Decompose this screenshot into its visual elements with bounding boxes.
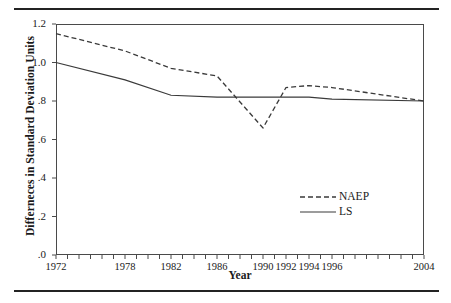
series-line-ls: [56, 63, 424, 102]
x-tick-label: 1972: [36, 261, 76, 272]
chart-svg: [0, 0, 451, 303]
series-line-naep: [56, 34, 424, 128]
y-tick-marks-group: [52, 24, 56, 255]
y-tick-label: 1.0: [12, 57, 46, 68]
y-tick-label: .4: [12, 172, 46, 183]
y-tick-label: 1.2: [12, 18, 46, 29]
legend-label-naep: NAEP: [339, 190, 369, 202]
x-tick-label: 1986: [197, 261, 237, 272]
y-tick-label: .0: [12, 249, 46, 260]
legend-label-ls: LS: [339, 205, 352, 217]
y-tick-label: .2: [12, 211, 46, 222]
figure-container: Differneces in Standard Deviation Units …: [0, 0, 451, 303]
x-tick-label: 1996: [312, 261, 352, 272]
y-tick-label: .6: [12, 134, 46, 145]
x-tick-label: 1982: [151, 261, 191, 272]
data-series-group: [56, 34, 424, 128]
x-tick-marks-group: [56, 255, 424, 259]
x-tick-label: 1978: [105, 261, 145, 272]
legend-marks-group: [300, 197, 336, 212]
y-tick-label: .8: [12, 95, 46, 106]
x-tick-label: 2004: [404, 261, 444, 272]
